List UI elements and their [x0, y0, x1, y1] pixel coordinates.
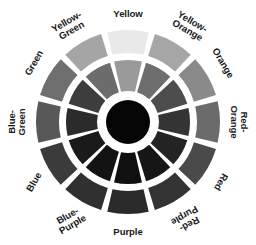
color-wheel-figure: YellowYellow- OrangeOrangeRed- OrangeRed… [0, 0, 256, 245]
wheel-segment [36, 101, 61, 142]
center-hub-disc [106, 100, 150, 144]
color-wheel-diagram [0, 0, 256, 245]
wheel-segment [195, 101, 220, 142]
wheel-segment [107, 189, 148, 214]
wheel-segment [107, 30, 148, 55]
